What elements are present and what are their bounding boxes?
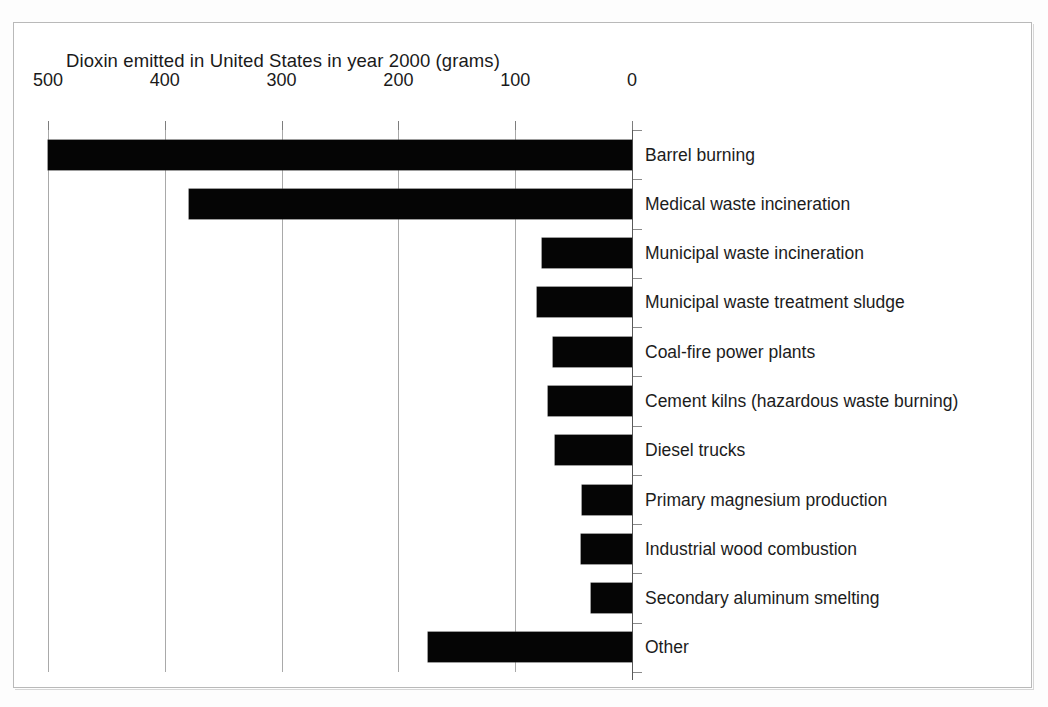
category-axis-tick (633, 376, 642, 377)
axis-tick-100 (515, 121, 516, 130)
bar (581, 534, 632, 564)
axis-tick-0 (632, 121, 633, 130)
bar (582, 485, 632, 515)
bar-category-label: Medical waste incineration (645, 193, 850, 214)
bar (189, 189, 632, 219)
plot-area: 5004003002001000 (48, 130, 632, 672)
bar (555, 435, 632, 465)
axis-tick-label-100: 100 (500, 70, 530, 91)
dioxin-emissions-chart-figure: Dioxin emitted in United States in year … (0, 0, 1048, 707)
bar (537, 287, 632, 317)
category-axis-tick (633, 524, 642, 525)
bar (542, 238, 632, 268)
axis-tick-label-200: 200 (383, 70, 413, 91)
axis-tick-label-400: 400 (150, 70, 180, 91)
axis-tick-200 (398, 121, 399, 130)
bar-category-label: Industrial wood combustion (645, 538, 857, 559)
axis-tick-label-500: 500 (33, 70, 63, 91)
category-axis-tick (633, 672, 642, 673)
axis-tick-300 (282, 121, 283, 130)
category-axis-tick (633, 475, 642, 476)
bar (48, 140, 632, 170)
axis-tick-500 (48, 121, 49, 130)
bar (428, 632, 632, 662)
category-axis-tick (633, 130, 642, 131)
chart-title: Dioxin emitted in United States in year … (66, 50, 500, 72)
category-axis-tick (633, 278, 642, 279)
bar-category-label: Municipal waste incineration (645, 243, 864, 264)
category-axis-tick (633, 179, 642, 180)
bar-category-label: Other (645, 637, 689, 658)
axis-tick-400 (165, 121, 166, 130)
bar (591, 583, 632, 613)
axis-tick-label-300: 300 (267, 70, 297, 91)
bar-category-label: Primary magnesium production (645, 489, 887, 510)
category-axis-tick (633, 573, 642, 574)
category-axis-tick (633, 327, 642, 328)
category-axis-tick (633, 229, 642, 230)
bar (548, 386, 632, 416)
bar-category-label: Secondary aluminum smelting (645, 588, 879, 609)
bar-category-label: Diesel trucks (645, 440, 745, 461)
category-axis-line (632, 122, 633, 680)
bar-category-label: Coal-fire power plants (645, 341, 815, 362)
bar-category-label: Cement kilns (hazardous waste burning) (645, 391, 958, 412)
bar (553, 337, 632, 367)
category-axis-tick (633, 623, 642, 624)
category-axis-tick (633, 426, 642, 427)
bar-category-label: Barrel burning (645, 144, 755, 165)
bar-category-label: Municipal waste treatment sludge (645, 292, 905, 313)
gridline-500 (48, 130, 49, 672)
axis-tick-label-0: 0 (627, 70, 637, 91)
gridline-400 (165, 130, 166, 672)
